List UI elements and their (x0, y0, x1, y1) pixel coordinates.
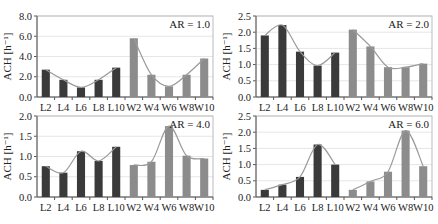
x-tick-label: W6 (380, 202, 395, 213)
bar-l4 (59, 80, 67, 97)
bar-l4 (278, 25, 286, 97)
x-tick-label: L4 (277, 202, 289, 213)
y-tick-label: 2.0 (19, 71, 32, 82)
bar-l2 (42, 70, 50, 97)
x-tick-label: L10 (108, 102, 125, 112)
bar-l6 (77, 87, 85, 97)
y-tick-label: 2.0 (19, 112, 32, 122)
ar-annotation: AR = 6.0 (388, 118, 429, 130)
y-tick-label: 1.0 (238, 59, 251, 70)
y-tick-label: 0.0 (238, 92, 251, 103)
chart-panel-ar-6: 0.00.51.01.52.02.5L2L4L6L8L10W2W4W6W8W10… (219, 112, 438, 224)
y-tick-label: 2.5 (238, 112, 251, 122)
x-tick-label: W2 (126, 202, 141, 213)
x-tick-label: L6 (294, 202, 306, 213)
bar-w8 (402, 67, 410, 97)
bar-l2 (261, 35, 269, 97)
bar-l10 (331, 165, 339, 197)
bar-w8 (402, 131, 410, 197)
bar-w10 (419, 166, 427, 197)
bar-w8 (183, 156, 191, 197)
y-axis-label: ACH [h⁻¹] (1, 33, 13, 81)
x-tick-label: L4 (58, 102, 70, 112)
bar-l6 (77, 151, 85, 197)
y-tick-label: 1.0 (19, 151, 32, 162)
bar-l8 (314, 145, 322, 197)
x-tick-label: W4 (144, 102, 160, 112)
trend-line-l (46, 68, 116, 88)
bar-w10 (200, 59, 208, 97)
y-tick-label: 0.0 (19, 192, 32, 203)
x-tick-label: L4 (58, 202, 70, 213)
bar-l10 (331, 53, 339, 97)
bar-w4 (366, 181, 374, 197)
bar-l8 (95, 80, 103, 97)
trend-line-w (353, 30, 423, 69)
x-tick-label: L6 (75, 202, 87, 213)
x-tick-label: W2 (345, 102, 360, 112)
y-tick-label: 0.0 (238, 192, 251, 203)
x-tick-label: W4 (363, 202, 379, 213)
bar-w8 (183, 75, 191, 97)
x-tick-label: L2 (259, 102, 271, 112)
bar-l4 (278, 185, 286, 197)
x-tick-label: W8 (179, 102, 194, 112)
y-tick-label: 0.5 (238, 175, 251, 186)
x-tick-label: W6 (161, 102, 176, 112)
y-tick-label: 0.0 (19, 92, 32, 103)
x-tick-label: W2 (126, 102, 141, 112)
y-tick-label: 2.0 (238, 127, 251, 138)
y-tick-label: 1.5 (238, 143, 251, 154)
chart-ar-6: 0.00.51.01.52.02.5L2L4L6L8L10W2W4W6W8W10… (219, 112, 438, 224)
y-tick-label: 1.5 (238, 43, 251, 54)
x-tick-label: W6 (161, 202, 176, 213)
x-tick-label: L8 (93, 202, 105, 213)
x-tick-label: W10 (413, 202, 433, 213)
bar-w6 (384, 67, 392, 97)
bar-w10 (200, 159, 208, 197)
bar-l2 (42, 166, 50, 197)
bar-w4 (147, 162, 155, 197)
x-tick-label: L6 (75, 102, 87, 112)
y-tick-label: 0.5 (19, 171, 32, 182)
y-tick-label: 8.0 (19, 11, 32, 22)
y-axis-label: ACH [h⁻¹] (220, 33, 232, 81)
x-tick-label: L10 (327, 202, 344, 213)
chart-ar-2: 0.00.51.01.52.02.5L2L4L6L8L10W2W4W6W8W10… (219, 0, 438, 112)
x-tick-label: W4 (363, 102, 379, 112)
x-tick-label: L10 (108, 202, 125, 213)
ar-annotation: AR = 1.0 (169, 18, 210, 30)
bar-w4 (366, 46, 374, 97)
x-tick-label: W8 (398, 102, 413, 112)
trend-line-w (134, 38, 204, 86)
bar-w6 (165, 126, 173, 197)
y-tick-label: 1.0 (238, 159, 251, 170)
y-tick-label: 6.0 (19, 31, 32, 42)
x-tick-label: W10 (194, 102, 214, 112)
y-axis-label: ACH [h⁻¹] (220, 133, 232, 181)
bar-w2 (130, 38, 138, 97)
bar-l6 (296, 52, 304, 97)
chart-panel-ar-2: 0.00.51.01.52.02.5L2L4L6L8L10W2W4W6W8W10… (219, 0, 438, 112)
ar-annotation: AR = 4.0 (169, 118, 210, 130)
bar-l8 (95, 161, 103, 197)
bar-l10 (112, 68, 120, 97)
bar-l10 (112, 147, 120, 197)
x-tick-label: W10 (194, 202, 214, 213)
chart-ar-1: 0.02.04.06.08.0L2L4L6L8L10W2W4W6W8W10AR … (0, 0, 219, 112)
chart-panel-ar-4: 0.00.51.01.52.0L2L4L6L8L10W2W4W6W8W10AR … (0, 112, 219, 224)
chart-panel-ar-1: 0.02.04.06.08.0L2L4L6L8L10W2W4W6W8W10AR … (0, 0, 219, 112)
y-tick-label: 2.0 (238, 27, 251, 38)
bar-w2 (349, 30, 357, 97)
x-tick-label: L2 (40, 202, 52, 213)
x-tick-label: L2 (40, 102, 52, 112)
x-tick-label: L8 (312, 202, 324, 213)
y-tick-label: 4.0 (19, 51, 32, 62)
bar-w2 (130, 165, 138, 197)
ar-annotation: AR = 2.0 (388, 18, 429, 30)
x-tick-label: W8 (179, 202, 194, 213)
y-axis-label: ACH [h⁻¹] (1, 133, 13, 181)
bar-l8 (314, 66, 322, 97)
bar-w10 (419, 64, 427, 97)
y-tick-label: 2.5 (238, 11, 251, 22)
